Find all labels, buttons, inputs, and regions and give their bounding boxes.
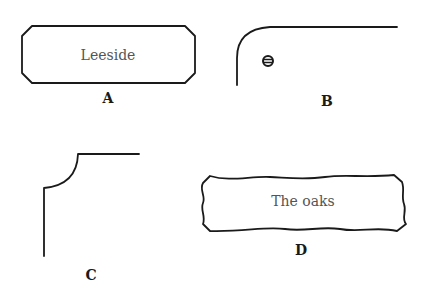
rounded-corner-outline	[237, 27, 397, 85]
sign-shapes-diagram: Leeside A B C The oaks D	[0, 0, 430, 298]
figure-label-d: D	[295, 242, 307, 258]
figure-c: C	[44, 154, 139, 283]
figure-d: The oaks D	[202, 175, 406, 258]
figure-label-b: B	[321, 93, 333, 109]
screw-icon	[263, 56, 273, 66]
figure-label-c: C	[85, 267, 96, 283]
sign-text-the-oaks: The oaks	[271, 193, 335, 209]
concave-corner-outline	[44, 154, 139, 256]
figure-b: B	[237, 27, 397, 109]
sign-text-leeside: Leeside	[81, 47, 136, 63]
figure-label-a: A	[102, 90, 115, 106]
figure-a: Leeside A	[22, 26, 195, 106]
